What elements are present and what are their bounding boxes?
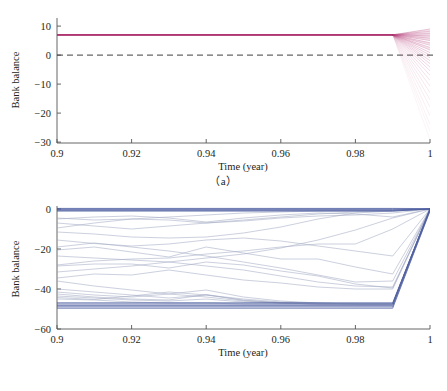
trajectories-bundle-top (57, 208, 430, 211)
panel-b-ytick-1: −20 (35, 244, 51, 255)
panel-b-ytick-3: −60 (35, 324, 51, 335)
panel-a-ytick-0: 10 (41, 21, 52, 32)
panel-a-ytick-4: −30 (35, 137, 51, 148)
panel-b-ytick-2: −40 (35, 284, 51, 295)
panel-b-xtick-5: 1 (427, 334, 432, 345)
panel-b-xtick-4: 0.98 (346, 334, 364, 345)
panel-a: 10 0 −10 −20 −30 0.9 0.92 0.94 0.96 0.98… (0, 0, 447, 195)
panel-b-xlabel: Time (year) (218, 347, 268, 359)
panel-a-axes (57, 18, 430, 143)
panel-a-xtick-1: 0.92 (122, 148, 140, 159)
trajectory-fan (57, 29, 430, 140)
panel-a-xtick-0: 0.9 (50, 148, 63, 159)
panel-a-xtick-2: 0.94 (197, 148, 216, 159)
panel-b-xtick-2: 0.94 (197, 334, 216, 345)
panel-b-ytick-0: 0 (46, 204, 51, 215)
panel-a-plot: 10 0 −10 −20 −30 0.9 0.92 0.94 0.96 0.98… (0, 0, 447, 172)
panel-a-ytick-2: −10 (35, 79, 51, 90)
panel-b-xtick-3: 0.96 (272, 334, 290, 345)
panel-b-xtick-0: 0.9 (50, 334, 63, 345)
panel-a-xlabel: Time (year) (218, 161, 268, 172)
panel-b-ylabel: Bank balance (10, 240, 21, 297)
panel-a-xtick-4: 0.98 (346, 148, 364, 159)
panel-b: 0 −20 −40 −60 0.9 0.92 0.94 0.96 0.98 1 … (0, 196, 447, 391)
figure-bank-balance-trajectories: 10 0 −10 −20 −30 0.9 0.92 0.94 0.96 0.98… (0, 0, 447, 391)
panel-a-xtick-3: 0.96 (272, 148, 290, 159)
trajectories-faint (57, 209, 430, 304)
panel-a-ytick-3: −20 (35, 108, 51, 119)
panel-a-caption: （a） (0, 172, 447, 188)
panel-b-xtick-1: 0.92 (122, 334, 140, 345)
panel-a-ytick-1: 0 (46, 50, 51, 61)
panel-b-plot: 0 −20 −40 −60 0.9 0.92 0.94 0.96 0.98 1 … (0, 196, 447, 368)
panel-a-ylabel: Bank balance (10, 51, 21, 108)
panel-a-xtick-5: 1 (427, 148, 432, 159)
